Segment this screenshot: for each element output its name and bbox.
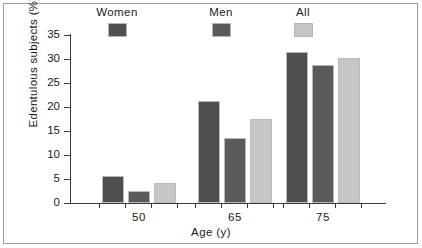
x-axis-title: Age (y) [0, 226, 422, 238]
bar-men-75 [312, 65, 334, 203]
bar-all-65 [250, 119, 272, 203]
legend-item-women: Women [72, 6, 162, 37]
x-tick-65-0 [195, 203, 196, 208]
bar-women-50 [102, 176, 124, 203]
x-group-label-75: 75 [293, 211, 353, 223]
bar-all-50 [154, 183, 176, 203]
y-tick-label-30: 30 [20, 52, 60, 64]
y-tick-label-15: 15 [20, 124, 60, 136]
legend-label-all: All [258, 6, 348, 19]
bar-men-65 [224, 138, 246, 203]
x-tick-65-2 [247, 203, 248, 208]
x-axis-line [70, 203, 386, 204]
x-tick-75-3 [361, 203, 362, 208]
y-tick-label-20: 20 [20, 100, 60, 112]
y-tick-label-10: 10 [20, 148, 60, 160]
plot-area [70, 35, 385, 203]
x-group-label-50: 50 [109, 211, 169, 223]
y-tick-label-5: 5 [20, 172, 60, 184]
x-tick-65-1 [221, 203, 222, 208]
bar-women-65 [198, 101, 220, 203]
legend-item-all: All [258, 6, 348, 37]
x-tick-50-1 [125, 203, 126, 208]
y-tick-label-0: 0 [20, 196, 60, 208]
y-tick-label-25: 25 [20, 76, 60, 88]
x-tick-75-0 [283, 203, 284, 208]
y-tick-label-35: 35 [20, 28, 60, 40]
y-tick-0 [64, 203, 70, 204]
x-tick-75-2 [335, 203, 336, 208]
x-tick-65-3 [273, 203, 274, 208]
x-tick-50-3 [177, 203, 178, 208]
bar-men-50 [128, 191, 150, 203]
chart-figure: Women Men All 05101520253035 506575 Age … [0, 0, 422, 248]
x-tick-50-0 [99, 203, 100, 208]
bar-women-75 [286, 52, 308, 203]
bar-all-75 [338, 58, 360, 203]
x-tick-50-2 [151, 203, 152, 208]
x-tick-75-1 [309, 203, 310, 208]
legend-label-women: Women [72, 6, 162, 19]
y-axis-title: Edentulous subjects (%) [27, 0, 39, 142]
x-group-label-65: 65 [205, 211, 265, 223]
legend-item-men: Men [176, 6, 266, 37]
legend-label-men: Men [176, 6, 266, 19]
